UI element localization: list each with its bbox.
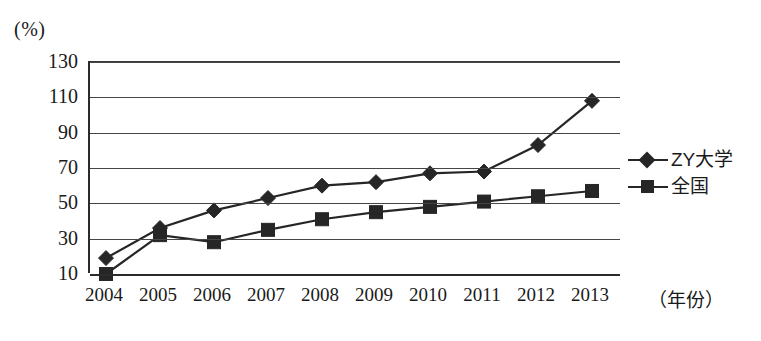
legend-item-1[interactable]: ZY大学: [628, 146, 761, 173]
gridline-110: [90, 97, 620, 98]
y-tick-label-10: 10: [18, 263, 78, 283]
diamond-marker-icon: [628, 153, 668, 167]
y-axis-tick-labels: 1301109070503010: [12, 0, 78, 341]
gridline-90: [90, 133, 620, 134]
y-tick-label-90: 90: [18, 122, 78, 142]
series-line-1: [106, 101, 592, 258]
x-axis-tick-labels: 2004200520062007200820092010201120122013: [88, 285, 620, 315]
legend-square-icon: [641, 180, 654, 193]
gridline-30: [90, 239, 620, 240]
data-point-2-2013: [586, 184, 599, 197]
y-tick-label-110: 110: [18, 86, 78, 106]
data-point-2-2005: [154, 229, 167, 242]
data-point-1-2004: [99, 251, 114, 266]
y-tick-label-70: 70: [18, 157, 78, 177]
y-tick-label-30: 30: [18, 228, 78, 248]
gridline-50: [90, 203, 620, 204]
data-point-2-2009: [370, 206, 383, 219]
gridline-10: [90, 274, 620, 276]
x-tick-label-2005: 2005: [130, 285, 186, 304]
gridline-130: [90, 62, 620, 63]
x-tick-label-2013: 2013: [562, 285, 618, 304]
x-tick-label-2009: 2009: [346, 285, 402, 304]
y-tick-label-50: 50: [18, 192, 78, 212]
data-point-1-2009: [369, 175, 384, 190]
data-point-2-2010: [424, 200, 437, 213]
square-marker-icon: [628, 180, 668, 194]
x-tick-label-2011: 2011: [454, 285, 510, 304]
x-axis-title: （年份）: [648, 285, 724, 312]
chart-legend: ZY大学全国: [628, 146, 761, 200]
x-tick-label-2010: 2010: [400, 285, 456, 304]
data-point-2-2006: [208, 236, 221, 249]
chart-figure: (%) 1301109070503010 2004200520062007200…: [0, 0, 761, 341]
data-point-2-2012: [532, 190, 545, 203]
data-point-1-2008: [315, 178, 330, 193]
y-tick-label-130: 130: [18, 51, 78, 71]
data-point-2-2007: [262, 223, 275, 236]
plot-area: [88, 61, 620, 273]
x-tick-label-2004: 2004: [76, 285, 132, 304]
legend-label: ZY大学: [671, 150, 733, 169]
data-point-2-2011: [478, 195, 491, 208]
x-tick-label-2006: 2006: [184, 285, 240, 304]
legend-diamond-icon: [639, 151, 656, 168]
gridline-70: [90, 168, 620, 169]
legend-item-2[interactable]: 全国: [628, 173, 761, 200]
data-point-1-2006: [207, 203, 222, 218]
data-point-2-2008: [316, 213, 329, 226]
x-tick-label-2008: 2008: [292, 285, 348, 304]
legend-label: 全国: [671, 177, 709, 196]
x-tick-label-2007: 2007: [238, 285, 294, 304]
data-point-1-2011: [477, 164, 492, 179]
x-tick-label-2012: 2012: [508, 285, 564, 304]
